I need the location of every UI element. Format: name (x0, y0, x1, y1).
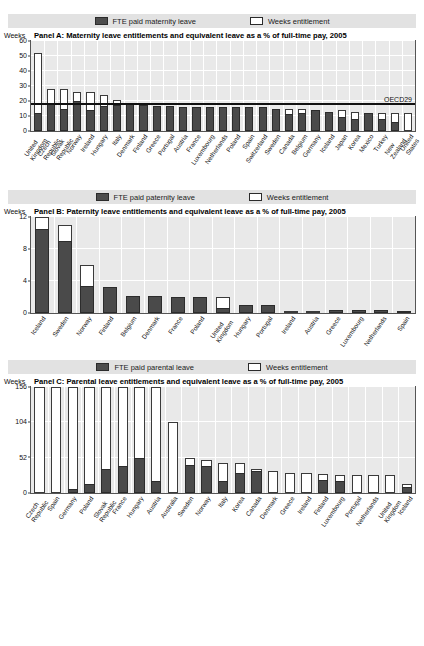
bar-cell[interactable] (31, 41, 44, 131)
bar-cell[interactable] (212, 217, 235, 313)
bar-cell[interactable] (302, 217, 325, 313)
bar-total[interactable] (60, 89, 68, 131)
bar-cell[interactable] (348, 387, 365, 493)
bar-total[interactable] (351, 112, 359, 131)
bar-cell[interactable] (282, 387, 299, 493)
bar-total[interactable] (385, 475, 395, 493)
bar-cell[interactable] (54, 217, 77, 313)
bar-total[interactable] (101, 387, 111, 493)
bar-cell[interactable] (332, 387, 349, 493)
bar-cell[interactable] (375, 41, 388, 131)
bar-cell[interactable] (382, 387, 399, 493)
bar-total[interactable] (311, 110, 319, 131)
bar-cell[interactable] (121, 217, 144, 313)
bar-total[interactable] (47, 89, 55, 131)
bar-total[interactable] (268, 471, 278, 493)
bar-total[interactable] (318, 474, 328, 493)
bar-cell[interactable] (98, 387, 115, 493)
bar-total[interactable] (35, 217, 49, 313)
bar-cell[interactable] (57, 41, 70, 131)
bar-total[interactable] (402, 484, 412, 493)
bar-total[interactable] (368, 475, 378, 493)
bar-total[interactable] (261, 305, 275, 313)
bar-total[interactable] (151, 387, 161, 493)
bar-total[interactable] (34, 53, 42, 131)
bar-total[interactable] (34, 387, 44, 493)
bar-total[interactable] (192, 107, 200, 131)
bar-total[interactable] (216, 297, 230, 313)
bar-cell[interactable] (298, 387, 315, 493)
bar-cell[interactable] (349, 41, 362, 131)
bar-total[interactable] (58, 225, 72, 313)
bar-cell[interactable] (398, 387, 415, 493)
bar-total[interactable] (68, 387, 78, 493)
bar-cell[interactable] (181, 387, 198, 493)
bar-total[interactable] (84, 387, 94, 493)
bar-cell[interactable] (144, 217, 167, 313)
bar-cell[interactable] (84, 41, 97, 131)
bar-total[interactable] (259, 107, 267, 131)
bar-total[interactable] (193, 297, 207, 313)
bar-total[interactable] (166, 106, 174, 132)
bar-total[interactable] (232, 107, 240, 131)
bar-total[interactable] (352, 310, 366, 313)
bar-cell[interactable] (64, 387, 81, 493)
bar-total[interactable] (306, 311, 320, 313)
bar-total[interactable] (100, 95, 108, 131)
bar-cell[interactable] (269, 41, 282, 131)
bar-total[interactable] (73, 92, 81, 131)
bar-cell[interactable] (131, 387, 148, 493)
bar-total[interactable] (179, 107, 187, 131)
bar-total[interactable] (404, 113, 412, 131)
bar-cell[interactable] (230, 41, 243, 131)
bar-total[interactable] (206, 107, 214, 131)
bar-total[interactable] (239, 305, 253, 313)
bar-total[interactable] (325, 112, 333, 132)
bar-cell[interactable] (189, 217, 212, 313)
bar-cell[interactable] (393, 217, 416, 313)
bar-total[interactable] (103, 287, 117, 313)
bar-cell[interactable] (31, 387, 48, 493)
bar-cell[interactable] (44, 41, 57, 131)
bar-total[interactable] (378, 113, 386, 131)
bar-total[interactable] (171, 297, 185, 313)
bar-cell[interactable] (365, 387, 382, 493)
bar-cell[interactable] (347, 217, 370, 313)
bar-cell[interactable] (198, 387, 215, 493)
bar-total[interactable] (139, 105, 147, 131)
bar-cell[interactable] (48, 387, 65, 493)
bar-total[interactable] (285, 473, 295, 493)
bar-total[interactable] (397, 311, 411, 313)
bar-cell[interactable] (362, 41, 375, 131)
bar-cell[interactable] (370, 217, 393, 313)
bar-total[interactable] (134, 387, 144, 493)
bar-total[interactable] (126, 104, 134, 131)
bar-cell[interactable] (148, 387, 165, 493)
bar-total[interactable] (219, 107, 227, 131)
bar-cell[interactable] (309, 41, 322, 131)
bar-cell[interactable] (99, 217, 122, 313)
bar-cell[interactable] (76, 217, 99, 313)
bar-cell[interactable] (322, 41, 335, 131)
bar-total[interactable] (352, 475, 362, 493)
bar-total[interactable] (301, 473, 311, 493)
bar-cell[interactable] (256, 41, 269, 131)
bar-total[interactable] (251, 469, 261, 493)
bar-cell[interactable] (243, 41, 256, 131)
bar-total[interactable] (51, 387, 61, 493)
bar-cell[interactable] (115, 387, 132, 493)
bar-total[interactable] (329, 310, 343, 313)
bar-total[interactable] (148, 296, 162, 313)
bar-cell[interactable] (177, 41, 190, 131)
bar-total[interactable] (235, 463, 245, 493)
bar-cell[interactable] (124, 41, 137, 131)
bar-cell[interactable] (280, 217, 303, 313)
bar-cell[interactable] (71, 41, 84, 131)
bar-total[interactable] (126, 296, 140, 313)
bar-cell[interactable] (150, 41, 163, 131)
bar-cell[interactable] (190, 41, 203, 131)
bar-cell[interactable] (257, 217, 280, 313)
bar-cell[interactable] (335, 41, 348, 131)
bar-total[interactable] (335, 475, 345, 493)
bar-total[interactable] (364, 113, 372, 131)
